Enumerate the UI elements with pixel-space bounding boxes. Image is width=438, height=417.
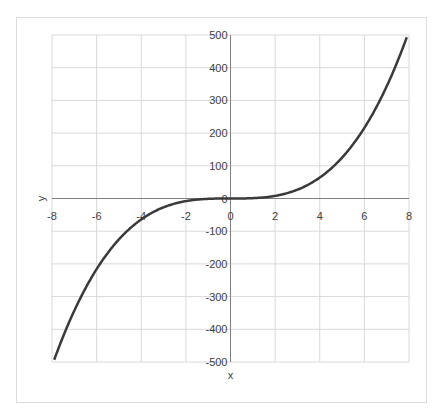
y-tick-label: 400: [209, 62, 227, 74]
x-tick-label: -2: [181, 210, 191, 222]
y-tick-label: -300: [205, 291, 227, 303]
x-tick-label: 8: [406, 210, 412, 222]
y-tick-label: 100: [209, 160, 227, 172]
y-tick-label: -100: [205, 225, 227, 237]
y-tick-label: 500: [209, 29, 227, 41]
x-axis-title: x: [228, 369, 234, 381]
y-tick-label: -500: [205, 356, 227, 368]
cubic-line-chart: -8-6-4-202468 5004003002001000-100-200-3…: [0, 0, 438, 417]
x-tick-label: 2: [272, 210, 278, 222]
y-axis-title: y: [35, 195, 47, 201]
x-tick-label: 4: [317, 210, 323, 222]
x-tick-label: 0: [227, 210, 233, 222]
y-tick-label: 200: [209, 127, 227, 139]
x-tick-label: 6: [361, 210, 367, 222]
x-tick-label: -8: [47, 210, 57, 222]
y-tick-label: -400: [205, 323, 227, 335]
y-tick-label: 300: [209, 94, 227, 106]
x-tick-labels: -8-6-4-202468: [47, 210, 412, 222]
x-tick-label: -6: [92, 210, 102, 222]
y-tick-label: -200: [205, 258, 227, 270]
